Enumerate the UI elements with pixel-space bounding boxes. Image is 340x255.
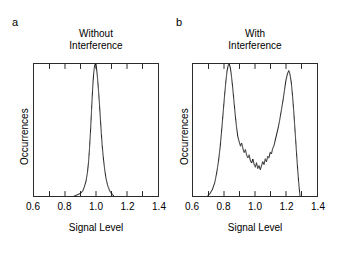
panel-a-letter: a [12, 17, 18, 28]
x-tick-label: 1.0 [89, 201, 103, 212]
panel-b-plot-area [192, 63, 318, 197]
curve-dots [207, 64, 300, 197]
x-tick-label: 0.8 [58, 201, 72, 212]
panel-a-plot-svg [34, 64, 158, 196]
x-tick-label: 1.0 [248, 201, 262, 212]
x-tick-label: 1.2 [121, 201, 135, 212]
panel-a-x-tick-labels: 0.60.81.01.21.4 [33, 201, 159, 213]
curve-dots [74, 64, 114, 197]
panel-b-title-line1: With [192, 28, 318, 40]
panel-b-x-tick-labels: 0.60.81.01.21.4 [192, 201, 318, 213]
figure-container: a Without Interference Occurrences 0.60.… [0, 0, 340, 255]
panel-a-plot-area [33, 63, 159, 197]
panel-b-plot-svg [193, 64, 317, 196]
panel-b-letter: b [176, 17, 182, 28]
panel-a-title-line2: Interference [33, 40, 159, 52]
panel-a: a Without Interference Occurrences 0.60.… [0, 0, 172, 255]
panel-a-title: Without Interference [33, 28, 159, 52]
panel-b-title: With Interference [192, 28, 318, 52]
panel-b-x-axis-label: Signal Level [192, 222, 318, 233]
x-tick-label: 1.4 [311, 201, 325, 212]
panel-b: b With Interference Occurrences 0.60.81.… [166, 0, 340, 255]
x-tick-label: 0.6 [185, 201, 199, 212]
x-tick-label: 1.2 [280, 201, 294, 212]
panel-a-y-axis-label: Occurrences [20, 108, 30, 165]
x-tick-label: 0.8 [217, 201, 231, 212]
x-tick-label: 0.6 [26, 201, 40, 212]
panel-a-title-line1: Without [33, 28, 159, 40]
panel-b-y-axis-label: Occurrences [180, 108, 190, 165]
panel-b-title-line2: Interference [192, 40, 318, 52]
x-tick-label: 1.4 [152, 201, 166, 212]
panel-a-x-axis-label: Signal Level [33, 222, 159, 233]
